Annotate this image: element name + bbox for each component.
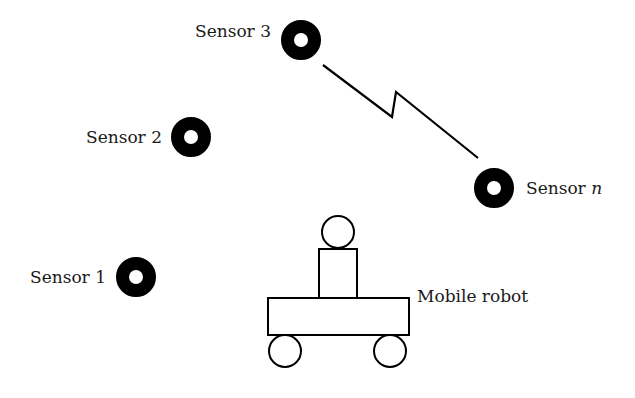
sensor-3-label: Sensor 3: [195, 23, 271, 40]
sensor-n-label-italic: n: [591, 178, 602, 198]
sensor-n-label-prefix: Sensor: [526, 178, 591, 198]
mobile-robot-label: Mobile robot: [417, 288, 528, 305]
diagram-canvas: [0, 0, 635, 398]
robot-base: [268, 298, 409, 335]
mobile-robot-icon: [268, 216, 409, 367]
sensor-3-node: [288, 27, 315, 54]
robot-wheel-right: [374, 335, 406, 367]
sensor-2-node: [178, 124, 205, 151]
robot-head: [322, 216, 354, 248]
sensor-1-label: Sensor 1: [30, 269, 106, 286]
wireless-link-icon: [323, 65, 478, 158]
sensor-n-node: [481, 175, 508, 202]
robot-wheel-left: [269, 335, 301, 367]
sensor-n-label: Sensor n: [526, 180, 602, 197]
robot-body: [319, 249, 357, 298]
sensor-2-label: Sensor 2: [86, 129, 162, 146]
sensor-1-node: [123, 264, 150, 291]
